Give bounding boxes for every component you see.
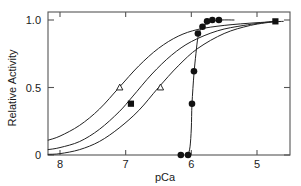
marker-filled-square-1: [272, 18, 278, 24]
y-tick-label-0.5: 0.5: [26, 82, 41, 94]
x-tick-label-6: 6: [188, 158, 194, 170]
marker-filled-circle-3: [191, 68, 198, 75]
marker-filled-circle-5: [199, 23, 206, 30]
x-tick-label-8: 8: [57, 158, 63, 170]
y-axis-label: Relative Activity: [6, 49, 18, 127]
chart-figure: 87651.00.50 pCa Relative Activity: [0, 0, 301, 186]
x-tick-label-5: 5: [254, 158, 260, 170]
y-tick-label-0: 0: [35, 149, 41, 161]
marker-filled-circle-0: [178, 152, 185, 159]
marker-filled-circle-8: [216, 17, 223, 24]
marker-filled-square-0: [128, 101, 134, 107]
marker-filled-circle-2: [189, 100, 196, 107]
marker-filled-circle-7: [209, 17, 216, 24]
x-tick-label-7: 7: [123, 158, 129, 170]
relative-activity-vs-pca-plot: 87651.00.50 pCa Relative Activity: [0, 0, 301, 186]
marker-filled-circle-4: [195, 30, 202, 37]
x-axis-label: pCa: [155, 171, 176, 183]
y-tick-label-1.0: 1.0: [26, 14, 41, 26]
